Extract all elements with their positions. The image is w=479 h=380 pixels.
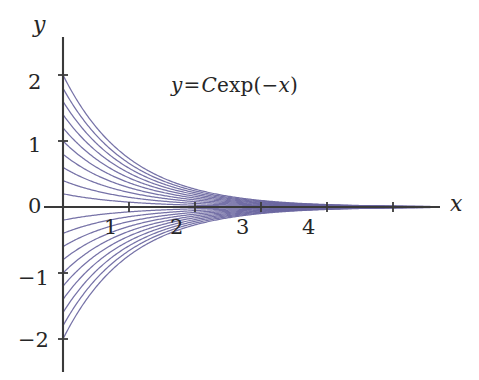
curve-path <box>63 207 439 299</box>
x-tick-label-2: 2 <box>170 217 183 238</box>
x-axis-label: x <box>450 193 462 215</box>
y-axis-label: y <box>33 14 45 36</box>
equation-constant: C <box>201 73 217 97</box>
y-tick-label-2: 2 <box>28 72 41 93</box>
y-tick-label-1: 1 <box>28 135 41 156</box>
y-tick-label-neg-2: −2 <box>18 330 49 351</box>
figure-container: y x 2 1 0 −1 −2 1 2 3 4 y=Cexp(−x) <box>0 0 479 380</box>
curve-path <box>63 207 439 339</box>
y-tick-label-neg-1: −1 <box>18 268 49 289</box>
equation-function: exp( <box>217 73 262 97</box>
equation-close-paren: ) <box>290 73 298 97</box>
curve-path <box>63 88 439 206</box>
curve-path <box>63 101 439 206</box>
curve-path <box>63 207 439 325</box>
plot-canvas <box>0 0 479 380</box>
equation-lhs: y <box>171 73 183 97</box>
x-tick-label-4: 4 <box>302 217 315 238</box>
equation-annotation: y=Cexp(−x) <box>171 75 298 95</box>
equation-relation: = <box>183 73 202 97</box>
equation-argument: −x <box>262 73 290 97</box>
curve-path <box>63 207 439 312</box>
y-tick-label-0: 0 <box>28 196 41 217</box>
curve-path <box>63 115 439 207</box>
x-tick-label-1: 1 <box>104 217 117 238</box>
x-tick-label-3: 3 <box>236 217 249 238</box>
